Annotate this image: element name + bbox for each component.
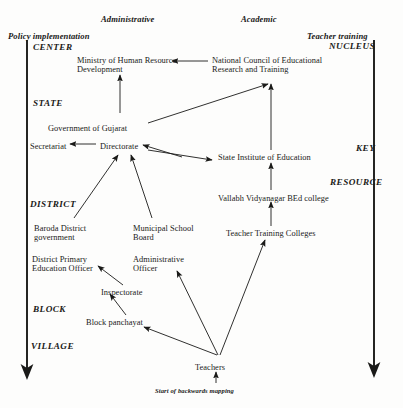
column-header-academic: Academic [241,15,277,25]
rank-label-nucleus: NUCLEUS [329,41,375,51]
edge-municipal-to-directorate [131,155,152,218]
rank-label-block: BLOCK [33,304,66,314]
node-baroda-district-government: Baroda District government [34,224,86,243]
edge-group [70,61,271,383]
column-header-administrative: Administrative [101,15,154,25]
node-vallabh-vidyanagar-bed-college: Vallabh Vidyanagar BEd college [218,194,329,203]
rank-label-district: DISTRICT [30,199,76,209]
rank-label-resource: RESOURCE [330,177,383,187]
left-spine-arrow-head [21,364,34,380]
edge-teachers-to-ttc [220,240,265,355]
spine-group [21,40,381,380]
edge-teachers-to-administrative-officer [177,271,218,355]
right-spine-arrow-head [368,362,381,378]
annotation-start-of-backwards-mapping: Start of backwards mapping [155,387,234,394]
node-national-council-of-educational-research-and-training: National Council of Educational Research… [212,56,322,75]
rank-label-village: VILLAGE [31,341,74,351]
rank-label-state: STATE [33,98,63,108]
node-teachers: Teachers [195,363,225,372]
column-header-policy-implementation: Policy implementation [8,32,90,42]
node-inspectorate: Inspectorate [101,288,143,297]
node-ministry-of-human-resource-development: Ministry of Human Resource Development [77,56,176,75]
edge-inspectorate-to-dpeo [98,266,123,285]
node-government-of-gujarat: Government of Gujarat [48,124,127,133]
diagram-canvas: Policy implementationAdministrativeAcade… [0,0,403,408]
edge-sie-to-directorate [143,145,182,157]
node-block-panchayat: Block panchayat [86,318,143,327]
node-secretariat: Secretariat [30,142,66,151]
edge-teachers-to-block-panchayat [144,327,217,355]
edge-baroda-to-directorate [74,155,118,218]
node-administrative-officer: Administrative Officer [133,255,184,274]
node-state-institute-of-education: State Institute of Education [218,153,311,162]
rank-label-center: CENTER [33,42,72,52]
node-municipal-school-board: Municipal School Board [133,224,194,243]
node-teacher-training-colleges: Teacher Training Colleges [226,229,316,238]
node-district-primary-education-officer: District Primary Education Officer [32,255,93,274]
rank-label-key: KEY [356,143,375,153]
edge-directorate-to-sie [148,150,212,160]
node-directorate: Directorate [100,142,138,151]
edge-gujarat-to-ncert [148,84,268,123]
